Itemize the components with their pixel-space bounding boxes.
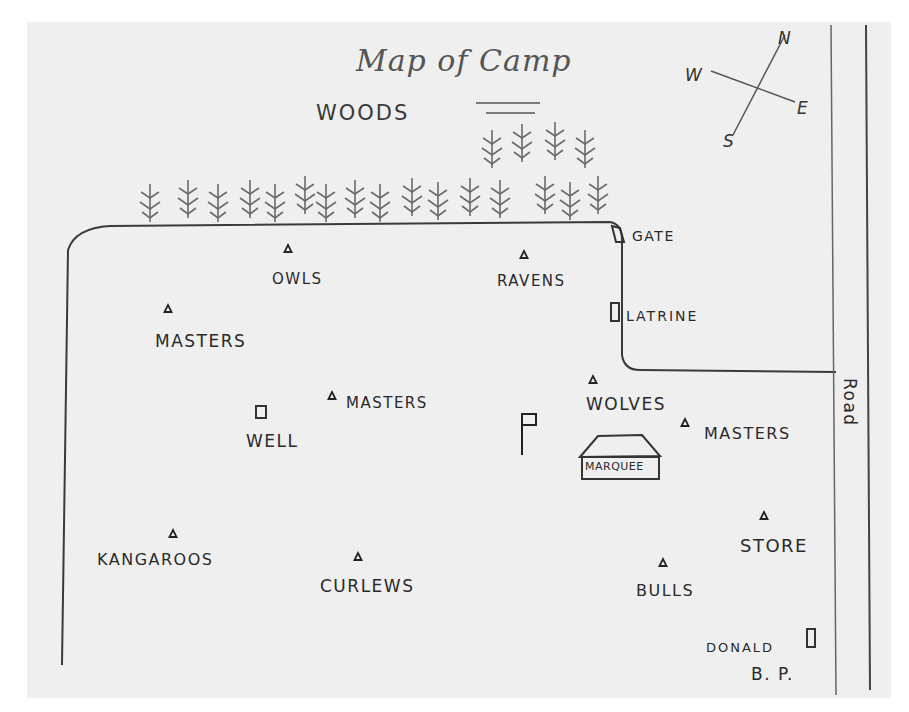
- tent-icon: [519, 249, 529, 259]
- compass-rose: [711, 35, 795, 135]
- compass-north: N: [778, 30, 792, 47]
- compass-east: E: [797, 100, 809, 117]
- tent-icon: [327, 390, 337, 400]
- tent-label-owls: OWLS: [272, 272, 323, 287]
- tent-label-kangaroos: KANGAROOS: [97, 552, 213, 568]
- well-label: WELL: [246, 433, 299, 450]
- gate-label: GATE: [632, 229, 675, 243]
- map-title: Map of Camp: [356, 46, 572, 76]
- camp-boundary: [62, 222, 836, 665]
- flag-icon: [522, 414, 536, 455]
- marquee-label: MARQUEE: [585, 461, 644, 472]
- road-edge-left: [831, 25, 836, 695]
- tent-icon: [353, 551, 363, 561]
- latrine-label: LATRINE: [626, 309, 698, 323]
- tent-label-masters-2: MASTERS: [346, 396, 428, 411]
- road-label: Road: [841, 378, 858, 427]
- tent-label-wolves: WOLVES: [586, 396, 666, 413]
- signature-mark-icon: [806, 628, 816, 648]
- store-label: STORE: [740, 537, 808, 555]
- tent-label-curlews: CURLEWS: [320, 578, 414, 595]
- latrine-icon: [610, 302, 620, 322]
- tent-icon: [588, 374, 598, 384]
- woods-trees: [0, 0, 608, 222]
- tent-icon: [658, 557, 668, 567]
- tent-label-masters-1: MASTERS: [155, 333, 246, 350]
- tent-label-masters-3: MASTERS: [704, 426, 791, 442]
- tent-icon: [163, 303, 173, 313]
- signature-initials: B. P.: [751, 666, 794, 683]
- well-icon: [255, 405, 267, 419]
- tent-label-bulls: BULLS: [636, 583, 694, 599]
- tent-icon: [283, 243, 293, 253]
- compass-south: S: [723, 133, 735, 150]
- compass-west: W: [685, 67, 703, 84]
- signature-name: DONALD: [706, 641, 774, 654]
- store-tent-icon: [759, 510, 769, 520]
- road-edge-right: [866, 25, 870, 690]
- tent-icon: [680, 417, 690, 427]
- tent-icon: [168, 528, 178, 538]
- woods-label: WOODS: [316, 103, 409, 124]
- tent-label-ravens: RAVENS: [497, 274, 566, 289]
- map-drawing: [0, 0, 909, 712]
